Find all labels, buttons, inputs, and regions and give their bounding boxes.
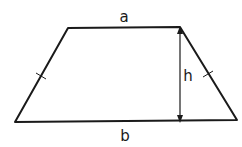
trapezoid-diagram: a h b xyxy=(0,0,242,147)
label-top-base: a xyxy=(119,8,128,26)
trapezoid-outline xyxy=(15,27,237,122)
label-height: h xyxy=(183,67,193,85)
label-bottom-base: b xyxy=(120,127,130,145)
